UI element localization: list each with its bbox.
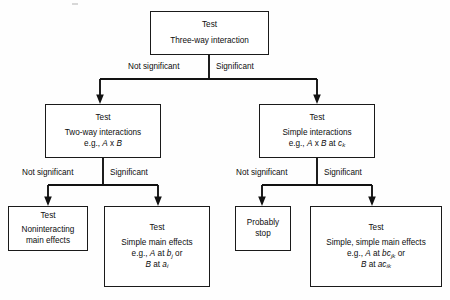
node-noninteracting-main-effects: Test Noninteracting main effects [8, 206, 88, 251]
arrowhead-root-right [313, 95, 321, 105]
arrowhead-twoway-right [154, 197, 162, 207]
arrowhead-twoway-left [44, 197, 52, 207]
node-simple-interactions: Test Simple interactions e.g., A x B at … [259, 104, 375, 158]
node-example-line-1: e.g., A at bcjk or [326, 249, 426, 260]
edge-label-simple-significant: Significant [324, 168, 362, 177]
edge-label-twoway-not-significant: Not significant [22, 168, 73, 177]
node-body: Simple interactions e.g., A x B at ck [282, 128, 351, 149]
node-body: Probably stop [247, 218, 279, 239]
node-head: Test [95, 113, 110, 124]
node-two-way-interactions: Test Two-way interactions e.g., A x B [45, 104, 161, 158]
node-three-way-interaction: Test Three-way interaction [150, 11, 269, 55]
node-example-line-2: B at ai [121, 260, 192, 271]
node-example: e.g., A x B at ck [282, 139, 351, 150]
node-body: Simple main effects e.g., A at bj or B a… [121, 238, 192, 270]
edge-label-root-not-significant: Not significant [128, 62, 179, 71]
node-simple-simple-main-effects: Test Simple, simple main effects e.g., A… [310, 206, 442, 287]
node-probably-stop: Probably stop [235, 206, 291, 251]
node-head: Test [149, 223, 164, 234]
node-simple-main-effects: Test Simple main effects e.g., A at bj o… [104, 206, 210, 287]
node-example-line-1: e.g., A at bj or [121, 249, 192, 260]
arrowhead-simple-left [258, 197, 266, 207]
edge-label-root-significant: Significant [216, 62, 254, 71]
node-body: Three-way interaction [170, 36, 249, 47]
node-example-line-2: B at acik [326, 260, 426, 271]
node-body: Simple, simple main effects e.g., A at b… [326, 238, 426, 270]
node-example: e.g., A x B [65, 139, 141, 150]
node-head: Test [368, 223, 383, 234]
node-head: Test [40, 211, 55, 222]
arrowhead-root-left [96, 95, 104, 105]
edge-label-twoway-significant: Significant [110, 168, 148, 177]
node-body: Two-way interactions e.g., A x B [65, 128, 141, 149]
arrowhead-simple-right [368, 197, 376, 207]
edge-label-simple-not-significant: Not significant [236, 168, 287, 177]
scan-artifact [72, 3, 78, 5]
node-head: Test [309, 113, 324, 124]
node-body: Noninteracting main effects [22, 225, 75, 246]
node-head: Test [202, 20, 217, 31]
flowchart-figure: Test Three-way interaction Not significa… [0, 0, 450, 300]
